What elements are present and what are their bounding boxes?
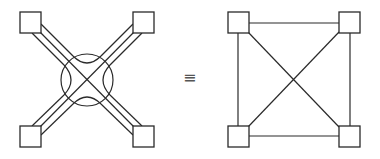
left-node-bottom-right [133, 126, 154, 147]
right-node-bottom-left [228, 126, 249, 147]
left-node-top-left [20, 12, 41, 33]
hub-curve-left [64, 65, 71, 95]
bundle-tl-upper [41, 24, 73, 56]
bundle-tl-lower [32, 33, 64, 65]
equivalence-symbol: ≡ [183, 70, 196, 86]
right-node-top-left [228, 12, 249, 33]
right-node-bottom-right [339, 126, 360, 147]
bundle-tr-lower [110, 33, 142, 65]
bundle-tr-upper [101, 24, 133, 56]
bundle-br-lower [101, 104, 133, 135]
right-node-top-right [339, 12, 360, 33]
left-bundles [32, 24, 142, 135]
left-node-top-right [133, 12, 154, 33]
right-edges [238, 23, 350, 136]
hub-curve-bottom [73, 97, 101, 104]
bundle-br-upper [110, 95, 142, 126]
hub-curve-right [103, 65, 110, 95]
hub-curve-top [73, 56, 101, 63]
bundle-bl-lower [41, 104, 73, 135]
bundle-bl-upper [32, 95, 64, 126]
left-node-bottom-left [20, 126, 41, 147]
